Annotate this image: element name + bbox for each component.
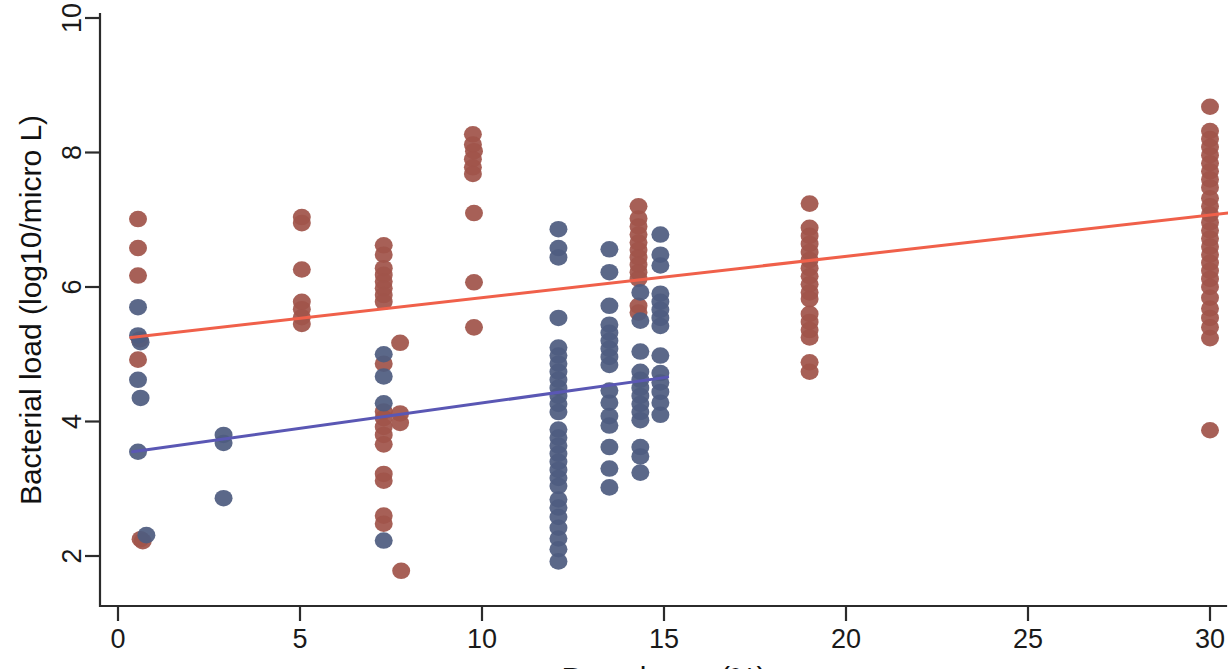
scatter-plot-figure: 246810051015202530 Prevalence (%)Bacteri… [0,0,1228,669]
data-point [651,347,669,364]
data-point [129,299,147,316]
data-point [631,343,649,360]
data-point [129,351,147,368]
data-point [375,346,393,363]
y-tick-label: 2 [57,548,87,563]
data-point [631,412,649,429]
x-tick-label: 20 [831,624,861,654]
data-point [600,460,618,477]
data-point [651,318,669,335]
fit-line-blue-regression [133,377,668,452]
data-point [631,312,649,329]
x-tick-label: 10 [467,624,497,654]
data-point [391,415,409,432]
data-point [631,464,649,481]
data-point [1201,422,1219,439]
series-blue-group [129,221,669,570]
y-tick-label: 8 [57,145,87,160]
x-axis-title: Prevalence (%) [561,661,766,669]
data-point [375,395,393,412]
series-red-group [129,98,1219,579]
data-point [549,553,567,570]
data-point [129,267,147,284]
data-point [549,310,567,327]
data-point [600,298,618,315]
data-point [801,363,819,380]
data-point [465,319,483,336]
data-point [631,284,649,301]
x-tick-label: 5 [292,624,307,654]
x-tick-label: 0 [110,624,125,654]
data-point [801,195,819,212]
data-point [631,448,649,465]
data-point [1201,330,1219,347]
data-point [293,215,311,232]
regression-lines [131,213,1228,452]
data-point [600,357,618,374]
data-point [129,211,147,228]
data-point [1201,98,1219,115]
data-point [600,479,618,496]
data-point [651,407,669,424]
data-point [549,221,567,238]
data-point [464,166,482,183]
data-point [391,335,409,352]
data-points [129,98,1219,579]
plot-canvas: 246810051015202530 Prevalence (%)Bacteri… [0,0,1228,669]
data-point [600,264,618,281]
data-point [600,241,618,258]
data-point [465,205,483,222]
data-point [375,532,393,549]
data-point [651,226,669,243]
x-tick-label: 15 [649,624,679,654]
x-tick-label: 25 [1013,624,1043,654]
data-point [392,563,410,580]
data-point [129,240,147,257]
data-point [132,390,150,407]
data-point [549,404,567,421]
data-point [375,368,393,385]
data-point [137,527,155,544]
data-point [465,274,483,291]
y-tick-label: 6 [57,279,87,294]
x-tick-label: 30 [1195,624,1225,654]
data-point [215,490,233,507]
data-point [375,436,393,453]
data-point [293,261,311,278]
data-point [801,329,819,346]
y-axis-title: Bacterial load (log10/micro L) [14,115,47,505]
data-point [129,372,147,389]
data-point [600,439,618,456]
data-point [549,249,567,266]
data-point [651,257,669,274]
data-point [801,291,819,308]
data-point [375,472,393,489]
data-point [600,417,618,434]
data-point [375,515,393,532]
y-tick-label: 10 [57,3,87,33]
y-tick-label: 4 [57,414,87,429]
